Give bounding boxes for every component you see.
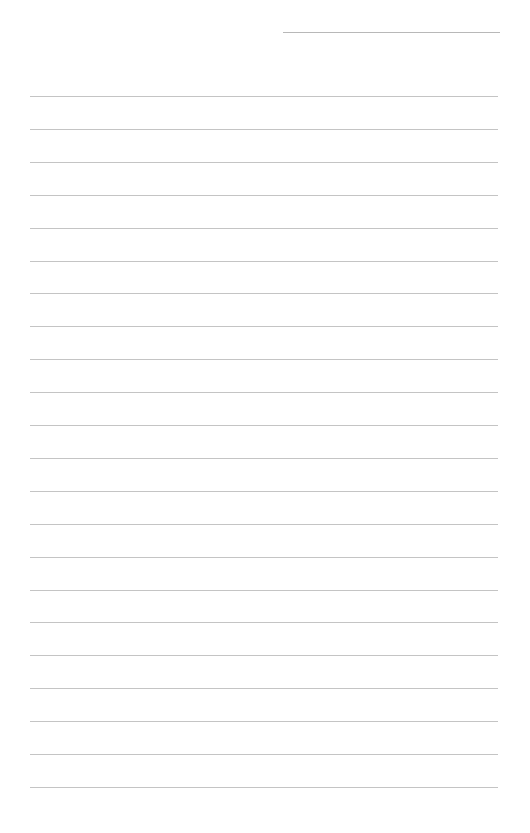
ruled-line [30,688,498,689]
ruled-line [30,655,498,656]
ruled-line [30,195,498,196]
ruled-line [30,754,498,755]
ruled-line [30,590,498,591]
ruled-line [30,458,498,459]
ruled-line [30,557,498,558]
header-date-line [283,32,500,33]
ruled-line [30,261,498,262]
ruled-line [30,622,498,623]
ruled-line [30,326,498,327]
ruled-line [30,228,498,229]
ruled-line [30,787,498,788]
ruled-line [30,392,498,393]
ruled-line [30,359,498,360]
ruled-line [30,425,498,426]
ruled-line [30,96,498,97]
ruled-line [30,491,498,492]
ruled-line [30,524,498,525]
ruled-line [30,721,498,722]
ruled-line [30,162,498,163]
ruled-line [30,293,498,294]
ruled-line [30,129,498,130]
